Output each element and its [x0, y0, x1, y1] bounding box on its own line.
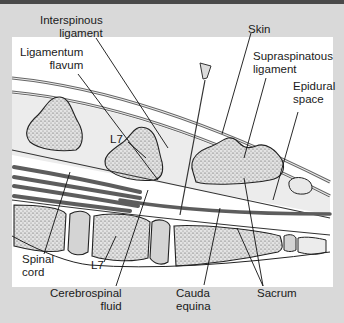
coccygeal-segment-dorsal	[289, 178, 312, 195]
label-l7-body: L7	[91, 259, 104, 272]
label-epidural-space: Epidural space	[293, 80, 335, 106]
label-supraspinatous-ligament: Supraspinatous ligament	[253, 50, 333, 76]
intervertebral-disc-lumbosacral	[150, 220, 170, 264]
intervertebral-disc-upper	[68, 211, 90, 255]
anatomy-figure: Interspinous ligament Ligamentum flavum …	[0, 0, 344, 323]
sacrococcygeal-disc	[284, 235, 296, 252]
label-cerebrospinal-fluid: Cerebrospinal fluid	[50, 287, 122, 313]
vertebral-body-l7	[92, 214, 150, 261]
label-ligamentum-flavum: Ligamentum flavum	[20, 46, 83, 72]
label-skin: Skin	[248, 23, 270, 36]
label-l7-spinous: L7	[110, 133, 123, 146]
label-cauda-equina: Cauda equina	[176, 287, 211, 313]
vertebral-body-upper	[14, 205, 66, 252]
label-interspinous-ligament: Interspinous ligament	[40, 14, 103, 40]
label-sacrum: Sacrum	[257, 287, 297, 300]
coccygeal-vertebra	[298, 237, 326, 254]
label-spinal-cord: Spinal cord	[22, 253, 54, 279]
